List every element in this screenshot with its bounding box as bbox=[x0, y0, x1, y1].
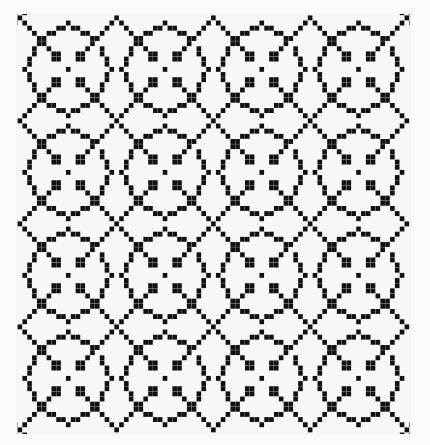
pattern-cell bbox=[37, 98, 42, 103]
pattern-cell bbox=[177, 366, 182, 371]
pattern-cell bbox=[80, 77, 85, 82]
pattern-cell bbox=[129, 31, 134, 36]
pattern-cell bbox=[308, 221, 313, 226]
pattern-cell bbox=[177, 237, 182, 242]
pattern-cell bbox=[226, 82, 231, 87]
pattern-cell bbox=[148, 263, 153, 268]
pattern-cell bbox=[400, 113, 405, 118]
pattern-cell bbox=[105, 26, 110, 31]
pattern-cell bbox=[100, 397, 105, 402]
pattern-cell bbox=[47, 355, 52, 360]
pattern-cell bbox=[206, 273, 211, 278]
pattern-cell bbox=[288, 93, 293, 98]
pattern-cell bbox=[371, 309, 376, 314]
pattern-cell bbox=[366, 314, 371, 319]
pattern-cell bbox=[380, 93, 385, 98]
pattern-cell bbox=[371, 263, 376, 268]
pattern-cell bbox=[177, 412, 182, 417]
pattern-cell bbox=[245, 288, 250, 293]
pattern-cell bbox=[347, 391, 352, 396]
pattern-cell bbox=[221, 314, 226, 319]
pattern-cell bbox=[80, 237, 85, 242]
pattern-cell bbox=[134, 36, 139, 41]
pattern-cell bbox=[32, 46, 37, 51]
pattern-cell bbox=[129, 340, 134, 345]
pattern-cell bbox=[259, 113, 264, 118]
pattern-cell bbox=[318, 165, 323, 170]
pattern-cell bbox=[298, 335, 303, 340]
pattern-cell bbox=[124, 165, 129, 170]
pattern-cell bbox=[168, 335, 173, 340]
pattern-cell bbox=[288, 36, 293, 41]
pattern-cell bbox=[124, 57, 129, 62]
pattern-cell bbox=[313, 319, 318, 324]
pattern-cell bbox=[109, 21, 114, 26]
pattern-cell bbox=[395, 335, 400, 340]
pattern-cell bbox=[274, 185, 279, 190]
pattern-cell bbox=[308, 324, 313, 329]
pattern-cell bbox=[313, 170, 318, 175]
pattern-cell bbox=[71, 417, 76, 422]
pattern-cell bbox=[85, 397, 90, 402]
pattern-cell bbox=[395, 129, 400, 134]
pattern-cell bbox=[293, 154, 298, 159]
pattern-cell bbox=[337, 237, 342, 242]
pattern-cell bbox=[61, 314, 66, 319]
pattern-cell bbox=[284, 407, 289, 412]
pattern-cell bbox=[347, 366, 352, 371]
pattern-cell bbox=[201, 175, 206, 180]
pattern-cell bbox=[37, 247, 42, 252]
pattern-cell bbox=[177, 257, 182, 262]
pattern-cell bbox=[90, 41, 95, 46]
pattern-cell bbox=[351, 108, 356, 113]
pattern-cell bbox=[182, 103, 187, 108]
pattern-cell bbox=[76, 180, 81, 185]
pattern-cell bbox=[356, 21, 361, 26]
pattern-cell bbox=[42, 98, 47, 103]
pattern-cell bbox=[100, 82, 105, 87]
pattern-cell bbox=[230, 242, 235, 247]
pattern-cell bbox=[105, 108, 110, 113]
pattern-cell bbox=[129, 134, 134, 139]
pattern-cell bbox=[187, 139, 192, 144]
pattern-cell bbox=[284, 36, 289, 41]
pattern-cell bbox=[172, 185, 177, 190]
pattern-cell bbox=[322, 340, 327, 345]
pattern-cell bbox=[192, 196, 197, 201]
pattern-cell bbox=[356, 216, 361, 221]
pattern-cell bbox=[376, 294, 381, 299]
pattern-cell bbox=[139, 299, 144, 304]
pattern-cell bbox=[390, 294, 395, 299]
pattern-cell bbox=[80, 185, 85, 190]
pattern-cell bbox=[240, 340, 245, 345]
pattern-cell bbox=[76, 288, 81, 293]
pattern-cell bbox=[153, 257, 158, 262]
pattern-cell bbox=[288, 402, 293, 407]
pattern-cell bbox=[51, 185, 56, 190]
pattern-cell bbox=[172, 26, 177, 31]
pattern-cell bbox=[22, 14, 27, 15]
pattern-cell bbox=[216, 227, 221, 232]
pattern-cell bbox=[288, 139, 293, 144]
pattern-cell bbox=[76, 185, 81, 190]
pattern-cell bbox=[221, 211, 226, 216]
pattern-cell bbox=[240, 294, 245, 299]
pattern-cell bbox=[318, 57, 323, 62]
pattern-cell bbox=[124, 283, 129, 288]
pattern-cell bbox=[66, 21, 71, 26]
pattern-cell bbox=[347, 108, 352, 113]
pattern-cell bbox=[100, 134, 105, 139]
pattern-cell bbox=[27, 366, 32, 371]
pattern-cell bbox=[400, 422, 405, 427]
pattern-cell bbox=[351, 335, 356, 340]
pattern-cell bbox=[172, 257, 177, 262]
pattern-cell bbox=[318, 381, 323, 386]
pattern-cell bbox=[42, 299, 47, 304]
pattern-cell bbox=[197, 191, 202, 196]
pattern-cell bbox=[356, 170, 361, 175]
pattern-cell bbox=[293, 46, 298, 51]
pattern-cell bbox=[327, 350, 332, 355]
pattern-cell bbox=[143, 31, 148, 36]
pattern-cell bbox=[235, 247, 240, 252]
pattern-cell bbox=[124, 232, 129, 237]
